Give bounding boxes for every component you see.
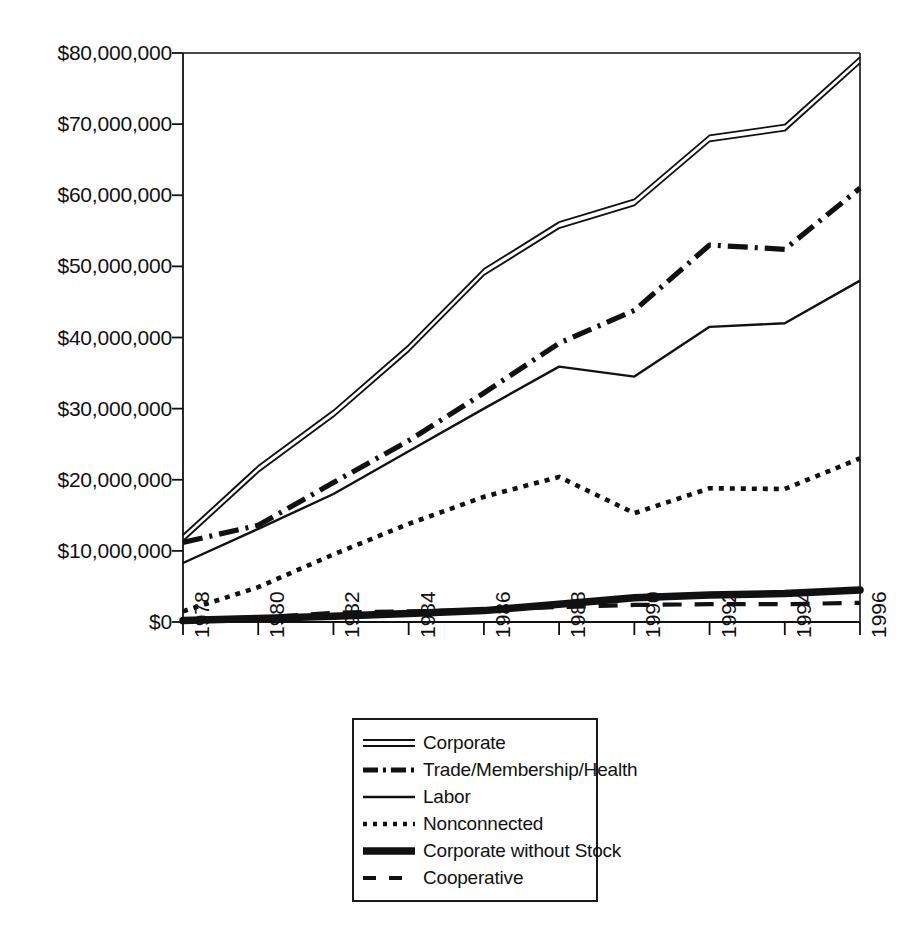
series-nonconnected [183,458,860,611]
dashed-line-key [362,868,416,888]
double-solid-line-key [362,733,416,753]
thin-solid-line-key [362,787,416,807]
dash-dot-line-key [362,760,416,780]
legend-item-label: Corporate [423,733,506,752]
series-trade-membership-health [183,188,860,542]
legend-item-label: Corporate without Stock [423,841,621,860]
legend-item[interactable]: Trade/Membership/Health [362,756,588,783]
line-chart: $0$10,000,000$20,000,000$30,000,000$40,0… [0,0,904,946]
legend-item-label: Cooperative [423,868,523,887]
legend-item-label: Trade/Membership/Health [423,760,637,779]
thick-solid-line-key [362,841,416,861]
series-line [183,57,860,535]
legend-item-label: Nonconnected [423,814,543,833]
series-line [183,188,860,542]
legend-item[interactable]: Corporate without Stock [362,837,588,864]
series-labor [183,281,860,563]
dotted-line-key [362,814,416,834]
series-line [183,281,860,563]
series-line [183,63,860,541]
legend-item[interactable]: Cooperative [362,864,588,891]
legend-item[interactable]: Corporate [362,729,588,756]
series-corporate [183,57,860,541]
legend-item[interactable]: Nonconnected [362,810,588,837]
legend-item-label: Labor [423,787,471,806]
series-line [183,458,860,611]
legend-item[interactable]: Labor [362,783,588,810]
chart-legend: CorporateTrade/Membership/HealthLaborNon… [352,718,598,902]
